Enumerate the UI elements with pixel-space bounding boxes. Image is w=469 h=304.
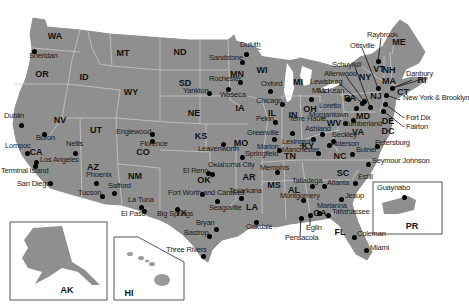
location-label: Terminal Island — [1, 167, 48, 175]
location-label: Lompoc — [5, 142, 30, 150]
location-label: Yankton — [183, 87, 209, 95]
location-marker[interactable] — [94, 181, 99, 186]
location-label: Otisville — [350, 42, 374, 50]
location-marker[interactable] — [362, 99, 367, 104]
state-label-me: ME — [392, 38, 406, 47]
state-label-ut: UT — [90, 126, 102, 135]
location-label: Cumberland — [343, 120, 382, 128]
location-label: Los Angeles — [40, 156, 79, 164]
location-label: Safford — [108, 182, 131, 190]
location-label: Sandstone — [209, 54, 243, 62]
location-marker[interactable] — [317, 211, 322, 216]
location-label: Three Rivers — [166, 246, 207, 254]
location-label: Butner — [356, 146, 377, 154]
location-marker[interactable] — [244, 52, 249, 57]
location-label: Estill — [358, 173, 373, 181]
location-label: Miami — [370, 244, 389, 252]
state-label-nc: NC — [334, 152, 347, 161]
location-label: Waseca — [220, 91, 246, 99]
location-label: Loretto — [319, 102, 341, 110]
location-marker[interactable] — [384, 93, 389, 98]
location-marker[interactable] — [390, 86, 395, 91]
state-label-co: CO — [136, 148, 150, 157]
location-marker[interactable] — [308, 213, 313, 218]
location-label: Tucson — [78, 189, 101, 197]
state-label-ne: NE — [188, 109, 201, 118]
state-label-ms: MS — [267, 181, 281, 190]
location-marker[interactable] — [331, 139, 336, 144]
location-label: Pekin — [256, 115, 274, 123]
location-label: Allenwood — [324, 70, 357, 78]
state-label-hi: HI — [125, 289, 134, 298]
location-marker[interactable] — [290, 131, 295, 136]
location-label: San Diego — [17, 180, 50, 188]
location-marker[interactable] — [309, 97, 314, 102]
state-label-nv: NV — [54, 116, 67, 125]
location-marker[interactable] — [322, 184, 327, 189]
location-label: Atlanta — [327, 179, 349, 187]
location-label: McKean — [318, 87, 344, 95]
location-marker[interactable] — [376, 86, 381, 91]
location-label: El Paso — [121, 210, 145, 218]
location-label: Fairton — [406, 123, 428, 131]
location-label: La Tuna — [128, 196, 154, 204]
state-label-mi: MI — [293, 78, 303, 87]
location-label: Lewisburg — [310, 78, 342, 86]
location-marker[interactable] — [350, 152, 355, 157]
location-label: New York & Brooklyn — [403, 94, 469, 102]
location-marker[interactable] — [376, 59, 381, 64]
location-marker[interactable] — [272, 137, 277, 142]
state-label-wa: WA — [48, 32, 63, 41]
location-marker[interactable] — [368, 105, 373, 110]
state-label-dc: DC — [382, 127, 395, 136]
location-marker[interactable] — [339, 197, 344, 202]
location-marker[interactable] — [201, 254, 206, 259]
location-marker[interactable] — [112, 191, 117, 196]
location-marker[interactable] — [326, 213, 331, 218]
location-marker[interactable] — [73, 151, 78, 156]
location-label: Raybrook — [367, 31, 398, 39]
location-label: Fort Worth and Carswell — [168, 189, 244, 197]
state-label-ma: MA — [382, 77, 396, 86]
location-marker[interactable] — [383, 102, 388, 107]
location-marker[interactable] — [353, 181, 358, 186]
state-label-nm: NM — [128, 172, 142, 181]
location-marker[interactable] — [19, 123, 24, 128]
location-marker[interactable] — [214, 227, 219, 232]
location-label: Montgomery — [280, 192, 320, 200]
location-marker[interactable] — [268, 89, 273, 94]
location-label: Bastrop — [184, 229, 208, 237]
location-marker[interactable] — [299, 216, 304, 221]
location-label: Fort Dix — [406, 114, 431, 122]
location-label: Guaynabo — [377, 184, 410, 192]
state-label-id: ID — [80, 73, 89, 82]
location-label: Oxford — [261, 80, 282, 88]
state-label-ks: KS — [195, 132, 208, 141]
location-marker[interactable] — [366, 162, 371, 167]
location-marker[interactable] — [364, 248, 369, 253]
location-label: Sheridan — [29, 52, 57, 60]
location-marker[interactable] — [352, 235, 357, 240]
location-label: Memphis — [260, 164, 289, 172]
location-label: Tallahassee — [332, 208, 369, 216]
location-label: Dublin — [4, 112, 24, 120]
location-label: Boron — [36, 134, 55, 142]
location-label: Morgantown — [309, 111, 348, 119]
location-label: Seagoville — [209, 204, 242, 212]
location-label: Florence — [140, 140, 168, 148]
state-label-wi: WI — [257, 66, 268, 75]
location-marker[interactable] — [381, 109, 386, 114]
location-marker[interactable] — [240, 155, 245, 160]
location-label: Talladega — [292, 177, 322, 185]
state-label-ak: AK — [61, 286, 74, 295]
location-marker[interactable] — [354, 106, 359, 111]
location-label: Danbury — [406, 70, 433, 78]
location-label: Duluth — [240, 41, 260, 49]
location-marker[interactable] — [25, 151, 30, 156]
location-label: Oakdale — [246, 223, 273, 231]
location-marker[interactable] — [402, 195, 407, 200]
location-label: Petersburg — [375, 139, 410, 147]
location-label: Leavenworth — [198, 145, 239, 153]
location-marker[interactable] — [346, 97, 351, 102]
location-label: Eglin — [306, 224, 322, 232]
